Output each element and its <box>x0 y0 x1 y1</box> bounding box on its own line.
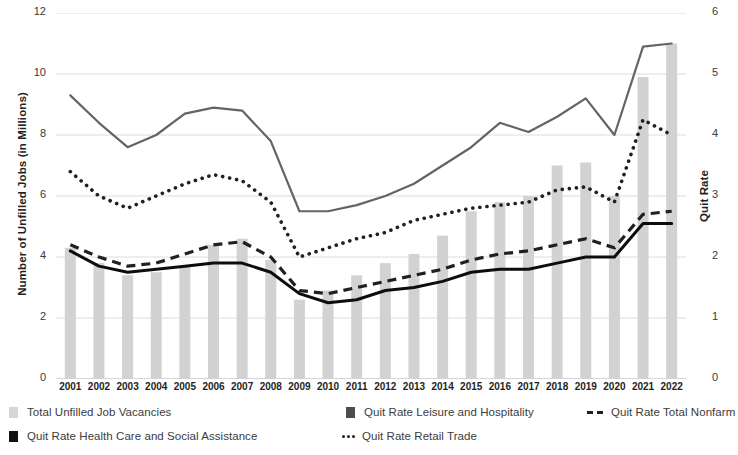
legend-label: Quit Rate Total Nonfarm <box>611 406 735 418</box>
bar <box>523 196 534 379</box>
dotted-line-icon <box>342 431 358 442</box>
legend-item-quit-rate-total-nonfarm[interactable]: Quit Rate Total Nonfarm <box>587 406 735 418</box>
y-axis-left-tick-label: 6 <box>20 188 46 200</box>
x-axis-tick-label: 2013 <box>403 381 425 392</box>
y-axis-left-tick-label: 12 <box>20 5 46 17</box>
x-axis-tick-label: 2004 <box>145 381 167 392</box>
chart-legend: Total Unfilled Job Vacancies Quit Rate L… <box>4 404 738 452</box>
x-axis-tick-label: 2019 <box>575 381 597 392</box>
y-axis-right-tick-label: 3 <box>712 188 738 200</box>
y-axis-left-tick-label: 10 <box>20 66 46 78</box>
x-axis-tick-label: 2008 <box>260 381 282 392</box>
bar <box>93 263 104 379</box>
x-axis-tick-label: 2009 <box>288 381 310 392</box>
x-axis-tick-label: 2001 <box>59 381 81 392</box>
bar-swatch-dark-icon <box>346 407 357 418</box>
legend-label: Total Unfilled Job Vacancies <box>27 406 171 418</box>
bar <box>151 272 162 379</box>
x-axis-tick-label: 2002 <box>88 381 110 392</box>
x-axis-ticks: 2001200220032004200520062007200820092010… <box>0 381 738 399</box>
bar <box>408 254 419 379</box>
bar <box>351 275 362 379</box>
y-axis-left-tick-label: 2 <box>20 310 46 322</box>
bar <box>552 166 563 380</box>
legend-label: Quit Rate Leisure and Hospitality <box>364 406 534 418</box>
chart-figure: Number of Unfilled Jobs (in Millions) Qu… <box>0 0 738 455</box>
x-axis-tick-label: 2011 <box>346 381 368 392</box>
bar <box>609 196 620 379</box>
y-axis-right-title: Quit Rate <box>698 136 710 256</box>
x-axis-tick-label: 2007 <box>231 381 253 392</box>
x-axis-tick-label: 2020 <box>603 381 625 392</box>
x-axis-tick-label: 2010 <box>317 381 339 392</box>
x-axis-tick-label: 2015 <box>460 381 482 392</box>
bar <box>294 300 305 379</box>
dashed-line-icon <box>587 407 607 418</box>
legend-item-quit-rate-health-care-and-social-assistance[interactable]: Quit Rate Health Care and Social Assista… <box>9 430 257 442</box>
bar <box>65 248 76 379</box>
x-axis-tick-label: 2014 <box>431 381 453 392</box>
legend-item-quit-rate-leisure-and-hospitality[interactable]: Quit Rate Leisure and Hospitality <box>346 406 534 418</box>
x-axis-tick-label: 2003 <box>116 381 138 392</box>
legend-item-quit-rate-retail-trade[interactable]: Quit Rate Retail Trade <box>342 430 477 442</box>
bar-swatch-black-icon <box>9 431 20 442</box>
x-axis-tick-label: 2018 <box>546 381 568 392</box>
y-axis-right-tick-label: 1 <box>712 310 738 322</box>
legend-label: Quit Rate Retail Trade <box>362 430 477 442</box>
y-axis-right-tick-label: 4 <box>712 127 738 139</box>
plot-area <box>56 13 686 379</box>
y-axis-right-tick-label: 6 <box>712 5 738 17</box>
bar-series-total-unfilled-job-vacancies <box>65 44 677 380</box>
y-axis-left-tick-label: 8 <box>20 127 46 139</box>
x-axis-tick-label: 2006 <box>202 381 224 392</box>
y-axis-left-ticks: 024681012 <box>16 0 46 390</box>
x-axis-tick-label: 2005 <box>174 381 196 392</box>
bar <box>237 239 248 379</box>
x-axis-tick-label: 2022 <box>661 381 683 392</box>
bar <box>122 275 133 379</box>
x-axis-tick-label: 2021 <box>632 381 654 392</box>
bar <box>466 211 477 379</box>
legend-item-total-unfilled-job-vacancies[interactable]: Total Unfilled Job Vacancies <box>9 406 171 418</box>
bar <box>265 260 276 379</box>
x-axis-tick-label: 2017 <box>517 381 539 392</box>
y-axis-right-tick-label: 5 <box>712 66 738 78</box>
x-axis-tick-label: 2012 <box>374 381 396 392</box>
x-axis-tick-label: 2016 <box>489 381 511 392</box>
bar <box>179 266 190 379</box>
y-axis-right-tick-label: 2 <box>712 249 738 261</box>
y-axis-left-tick-label: 4 <box>20 249 46 261</box>
bar <box>494 202 505 379</box>
bar-swatch-light-icon <box>9 407 20 418</box>
bar <box>580 162 591 379</box>
bar <box>437 236 448 379</box>
legend-label: Quit Rate Health Care and Social Assista… <box>27 430 257 442</box>
y-axis-right-ticks: 0123456 <box>712 0 738 390</box>
